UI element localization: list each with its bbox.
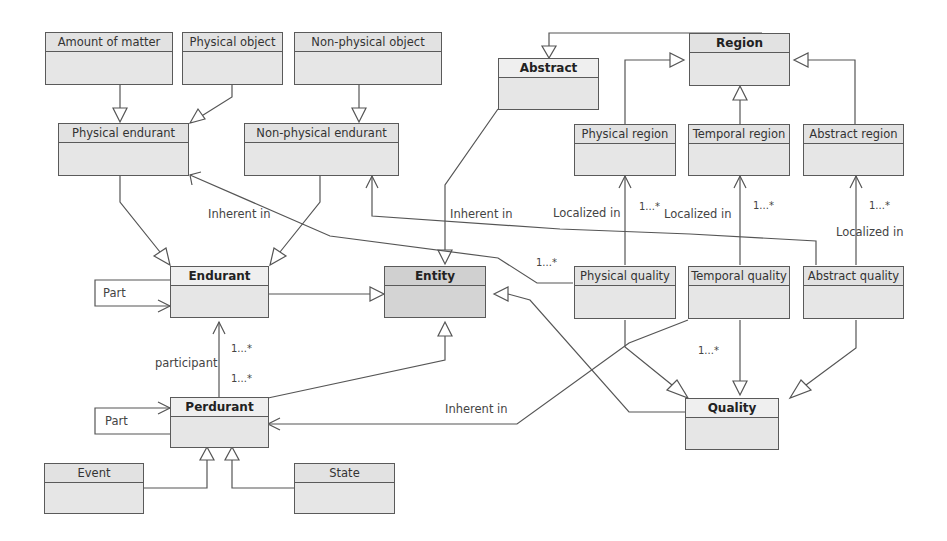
class-event[interactable]: Event (44, 463, 144, 514)
class-non-physical-object[interactable]: Non-physical object (294, 32, 442, 85)
label-inherent-in-perdurant: Inherent in (445, 402, 508, 416)
class-quality[interactable]: Quality (685, 398, 779, 450)
class-name: Physical quality (575, 267, 675, 286)
class-physical-quality[interactable]: Physical quality (574, 266, 676, 319)
multiplicity: 1...* (639, 201, 660, 212)
class-name: Abstract quality (804, 267, 903, 286)
class-non-physical-endurant[interactable]: Non-physical endurant (244, 123, 399, 176)
multiplicity: 1...* (753, 200, 774, 211)
label-localized-in-abstract: Localized in (836, 225, 904, 239)
label-localized-in-temporal: Localized in (664, 207, 732, 221)
class-name: Abstract (499, 59, 598, 78)
class-physical-region[interactable]: Physical region (574, 124, 676, 176)
ontology-class-diagram: Amount of matter Physical object Non-phy… (0, 0, 947, 541)
label-participant: participant (155, 356, 217, 370)
class-physical-endurant[interactable]: Physical endurant (58, 123, 189, 176)
class-temporal-quality[interactable]: Temporal quality (688, 266, 790, 319)
class-abstract-quality[interactable]: Abstract quality (803, 266, 904, 319)
class-name: State (295, 464, 394, 483)
class-physical-object[interactable]: Physical object (182, 32, 283, 85)
class-name: Non-physical object (295, 33, 441, 52)
class-name: Entity (385, 267, 485, 286)
label-part-endurant: Part (103, 286, 126, 300)
class-name: Non-physical endurant (245, 124, 398, 143)
multiplicity: 1...* (698, 345, 719, 356)
class-name: Physical object (183, 33, 282, 52)
class-temporal-region[interactable]: Temporal region (688, 124, 790, 176)
label-inherent-in-nonphysical: Inherent in (450, 207, 513, 221)
class-entity[interactable]: Entity (384, 266, 486, 318)
class-name: Event (45, 464, 143, 483)
class-region[interactable]: Region (689, 33, 790, 86)
class-name: Perdurant (171, 398, 268, 417)
class-name: Physical endurant (59, 124, 188, 143)
label-inherent-in-physical: Inherent in (208, 207, 271, 221)
class-abstract-region[interactable]: Abstract region (803, 124, 904, 176)
label-part-perdurant: Part (105, 414, 128, 428)
class-perdurant[interactable]: Perdurant (170, 397, 269, 448)
class-name: Quality (686, 399, 778, 418)
class-name: Temporal quality (689, 267, 789, 286)
multiplicity: 1...* (231, 343, 252, 354)
multiplicity: 1...* (869, 200, 890, 211)
multiplicity: 1...* (536, 257, 557, 268)
class-name: Endurant (171, 267, 268, 286)
class-endurant[interactable]: Endurant (170, 266, 269, 318)
class-name: Physical region (575, 125, 675, 144)
class-state[interactable]: State (294, 463, 395, 514)
class-name: Region (690, 34, 789, 53)
class-name: Temporal region (689, 125, 789, 144)
class-name: Amount of matter (46, 33, 172, 52)
multiplicity: 1...* (231, 373, 252, 384)
class-name: Abstract region (804, 125, 903, 144)
class-abstract[interactable]: Abstract (498, 58, 599, 110)
class-amount-of-matter[interactable]: Amount of matter (45, 32, 173, 85)
label-localized-in-physical: Localized in (553, 206, 621, 220)
